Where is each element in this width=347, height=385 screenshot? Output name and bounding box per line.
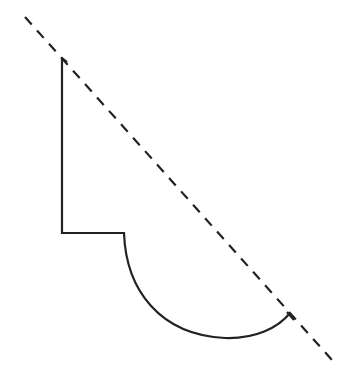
diagram-canvas <box>0 0 347 385</box>
diagram-svg <box>0 0 347 385</box>
half-shape-outline <box>62 58 290 338</box>
dashed-symmetry-line <box>25 17 332 360</box>
